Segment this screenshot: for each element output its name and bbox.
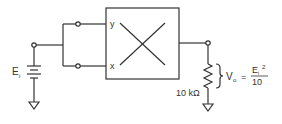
y-terminal — [76, 22, 80, 26]
formula-denominator: 10 — [252, 77, 262, 87]
formula-numerator-sub: i — [258, 70, 259, 76]
ground-icon-left — [29, 102, 39, 109]
output-label: V — [226, 71, 233, 82]
output-label-sub: o — [233, 77, 237, 83]
x-input-label: x — [110, 61, 115, 71]
x-terminal — [76, 64, 80, 68]
output-brace — [216, 64, 223, 88]
formula-numerator-exp: 2 — [262, 64, 266, 70]
output-terminal — [206, 41, 210, 45]
source-label: E — [12, 66, 19, 77]
output-equals: = — [241, 72, 246, 82]
source-label-sub: i — [19, 73, 20, 79]
y-input-label: y — [110, 19, 115, 29]
circuit-diagram: y x E i 10 kΩ V o = E i 2 10 — [0, 0, 282, 124]
source-terminal — [32, 43, 36, 47]
resistor-label: 10 kΩ — [176, 88, 200, 98]
resistor-zigzag — [204, 64, 212, 88]
ground-icon-right — [203, 104, 213, 111]
